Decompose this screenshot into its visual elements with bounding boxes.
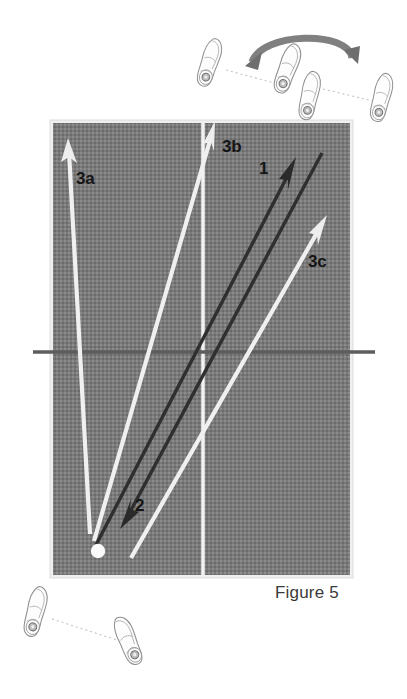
arrow-label-1: 1 (259, 160, 268, 177)
court-group (33, 120, 375, 578)
shoe-bottom-2 (108, 614, 149, 668)
arrow-label-3c: 3c (308, 253, 326, 270)
shoe-top-3 (298, 70, 322, 121)
rotation-curved-arrow (245, 38, 360, 70)
figure-container: 3a 3b 1 3c 2 Figure 5 (0, 0, 407, 699)
arrow-label-2: 2 (135, 497, 144, 514)
arrow-label-3a: 3a (76, 170, 94, 187)
dotted-path-bottom (52, 619, 120, 641)
shoe-bottom-1 (23, 585, 49, 638)
shoe-top-2 (272, 41, 303, 95)
arrow-label-3b: 3b (222, 138, 241, 155)
shoes-bottom-group (23, 585, 149, 667)
shoe-top-1 (196, 37, 224, 89)
dotted-paths-top-group (226, 70, 373, 101)
figure-caption: Figure 5 (275, 583, 339, 603)
shuttle-ball (91, 544, 105, 558)
figure-canvas (0, 0, 407, 699)
shoes-top-group (196, 37, 395, 123)
dotted-path-top-b (323, 89, 373, 101)
shoe-top-4 (369, 72, 394, 123)
